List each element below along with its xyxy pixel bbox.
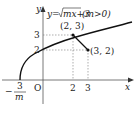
origin-label: O <box>34 83 41 93</box>
equation-prefix: y= <box>46 9 60 19</box>
x-axis-label: x <box>125 82 130 92</box>
y-tick-2: 2 <box>34 45 40 55</box>
y-tick-3: 3 <box>34 30 40 40</box>
point-label-2-3: (2, 3) <box>60 21 84 31</box>
y-axis-label: y <box>35 4 42 14</box>
x-intercept-denominator: m <box>15 92 24 102</box>
y-axis-arrow-icon <box>41 6 46 12</box>
x-tick-3: 3 <box>85 83 91 93</box>
x-tick-2: 2 <box>70 83 76 93</box>
point-label-3-2: (3, 2) <box>90 46 114 56</box>
point-2-3 <box>71 33 74 36</box>
equation-condition: (m>0) <box>82 9 111 19</box>
segment-p1-p2 <box>73 35 88 50</box>
x-intercept-numerator: 3 <box>17 81 23 91</box>
x-intercept-sign: − <box>5 86 13 96</box>
function-graph: y y= mx+3 (m>0) (2, 3) (3, 2) 3 2 2 3 O … <box>0 0 138 113</box>
